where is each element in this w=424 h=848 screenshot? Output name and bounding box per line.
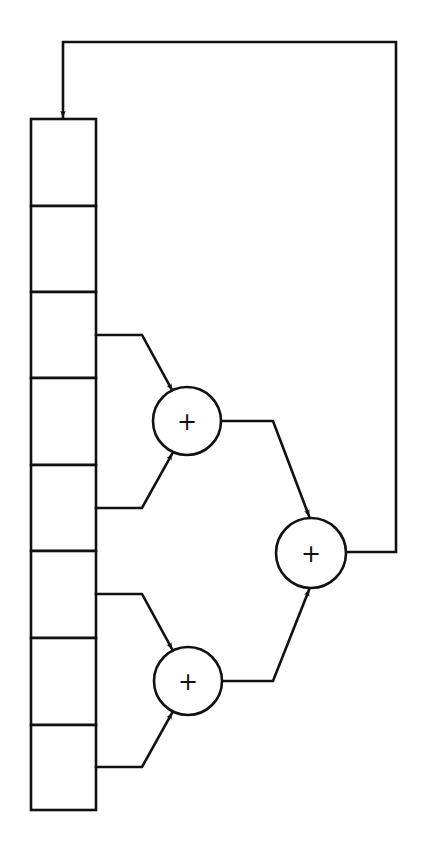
register-cell-3 — [31, 292, 96, 378]
feedback-arrow-icon — [63, 42, 396, 552]
input-arrow-icon — [96, 594, 172, 649]
input-arrow-icon — [96, 454, 172, 508]
adder-1: + — [153, 387, 221, 455]
plus-icon: + — [301, 540, 321, 568]
adder-2: + — [154, 647, 222, 715]
plus-icon: + — [177, 408, 197, 436]
adder-3: + — [276, 518, 346, 588]
input-arrow-icon — [96, 713, 172, 767]
shift-register — [31, 119, 96, 810]
register-cell-4 — [31, 378, 96, 465]
input-arrow-icon — [221, 421, 309, 516]
input-arrow-icon — [96, 335, 172, 390]
register-cell-5 — [31, 465, 96, 551]
plus-icon: + — [178, 668, 198, 696]
register-cell-7 — [31, 638, 96, 725]
register-cell-8 — [31, 725, 96, 810]
adder-tree-diagram: + + + — [0, 0, 424, 848]
register-cell-1 — [31, 119, 96, 206]
register-cell-6 — [31, 551, 96, 638]
register-cell-2 — [31, 206, 96, 292]
feedback-path — [63, 42, 396, 552]
input-arrow-icon — [222, 590, 309, 681]
